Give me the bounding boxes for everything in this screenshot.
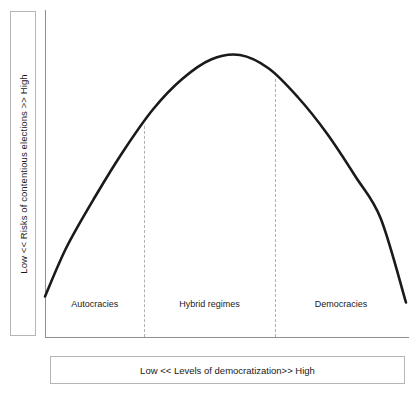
region-label-democracies: Democracies	[281, 299, 401, 309]
region-label-hybrid-regimes: Hybrid regimes	[150, 299, 270, 309]
region-label-autocracies: Autocracies	[35, 299, 155, 309]
risk-curve-path	[45, 55, 406, 303]
x-axis-title-box: Low << Levels of democratization>> High	[50, 356, 405, 384]
region-divider-hybrid-democracies	[275, 79, 276, 337]
chart-figure: Low << Risks of contentious elections >>…	[0, 0, 417, 396]
curve-plot	[0, 0, 417, 396]
x-axis-title: Low << Levels of democratization>> High	[140, 365, 315, 376]
